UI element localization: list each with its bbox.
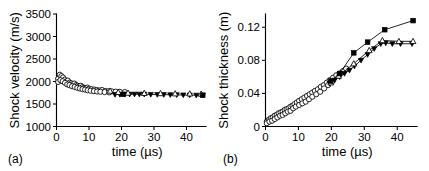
panel-a-svg: 100015002000250030003500010203040time (µ… — [0, 0, 214, 171]
panel-a-x-ticklabel: 40 — [180, 131, 193, 143]
panel-a-y-ticklabel: 2500 — [25, 53, 51, 65]
panel-b-x-ticklabel: 30 — [358, 131, 371, 143]
figure-container: 100015002000250030003500010203040time (µ… — [0, 0, 429, 171]
panel-b-marker-square — [328, 79, 333, 84]
panel-a-ylabel: Shock velocity (m/s) — [7, 12, 22, 128]
panel-a-y-ticklabel: 3500 — [25, 8, 51, 20]
panel-b-y-ticklabel: 0 — [254, 121, 260, 133]
panel-b-plot-area: 00.040.080.12010203040time (µs)Shock thi… — [216, 12, 418, 166]
panel-b-x-ticklabel: 40 — [391, 131, 404, 143]
panel-a-marker-square — [121, 92, 126, 97]
panel-b-y-ticklabel: 0.12 — [238, 21, 260, 33]
panel-a-y-ticklabel: 2000 — [25, 76, 51, 88]
panel-a-axis-spines — [57, 14, 207, 127]
panel-b-x-ticklabel: 0 — [262, 131, 268, 143]
panel-a-x-ticklabel: 30 — [148, 131, 161, 143]
panel-a-y-ticklabel: 1500 — [25, 98, 51, 110]
panel-a-panel-label: (a) — [8, 152, 23, 166]
panel-a-x-ticklabel: 10 — [83, 131, 96, 143]
panel-a-xlabel: time (µs) — [112, 144, 163, 159]
panel-b-x-ticklabel: 20 — [325, 131, 338, 143]
panel-a-y-ticklabel: 3000 — [25, 31, 51, 43]
panel-b-marker-square — [382, 27, 387, 32]
panel-b-x-ticklabel: 10 — [292, 131, 305, 143]
panel-b-shock-thickness: 00.040.080.12010203040time (µs)Shock thi… — [215, 0, 429, 171]
panel-a-marker-square — [200, 93, 205, 98]
panel-b-xlabel: time (µs) — [322, 144, 373, 159]
panel-b-marker-triangle-up — [380, 37, 386, 42]
panel-a-plot-area: 100015002000250030003500010203040time (µ… — [7, 8, 207, 166]
panel-b-marker-triangle-up — [366, 47, 372, 52]
panel-b-y-ticklabel: 0.08 — [238, 54, 260, 66]
panel-b-panel-label: (b) — [223, 152, 238, 166]
panel-b-marker-square — [351, 51, 356, 56]
panel-b-y-ticklabel: 0.04 — [238, 87, 261, 99]
panel-b-marker-square — [365, 40, 370, 45]
panel-b-ylabel: Shock thickness (m) — [216, 12, 231, 129]
panel-a-y-ticklabel: 1000 — [25, 121, 51, 133]
panel-b-marker-square — [411, 18, 416, 23]
panel-a-shock-velocity: 100015002000250030003500010203040time (µ… — [0, 0, 214, 171]
panel-a-x-ticklabel: 20 — [115, 131, 128, 143]
panel-b-marker-square — [337, 71, 342, 76]
panel-a-x-ticklabel: 0 — [53, 131, 59, 143]
panel-b-svg: 00.040.080.12010203040time (µs)Shock thi… — [215, 0, 429, 171]
